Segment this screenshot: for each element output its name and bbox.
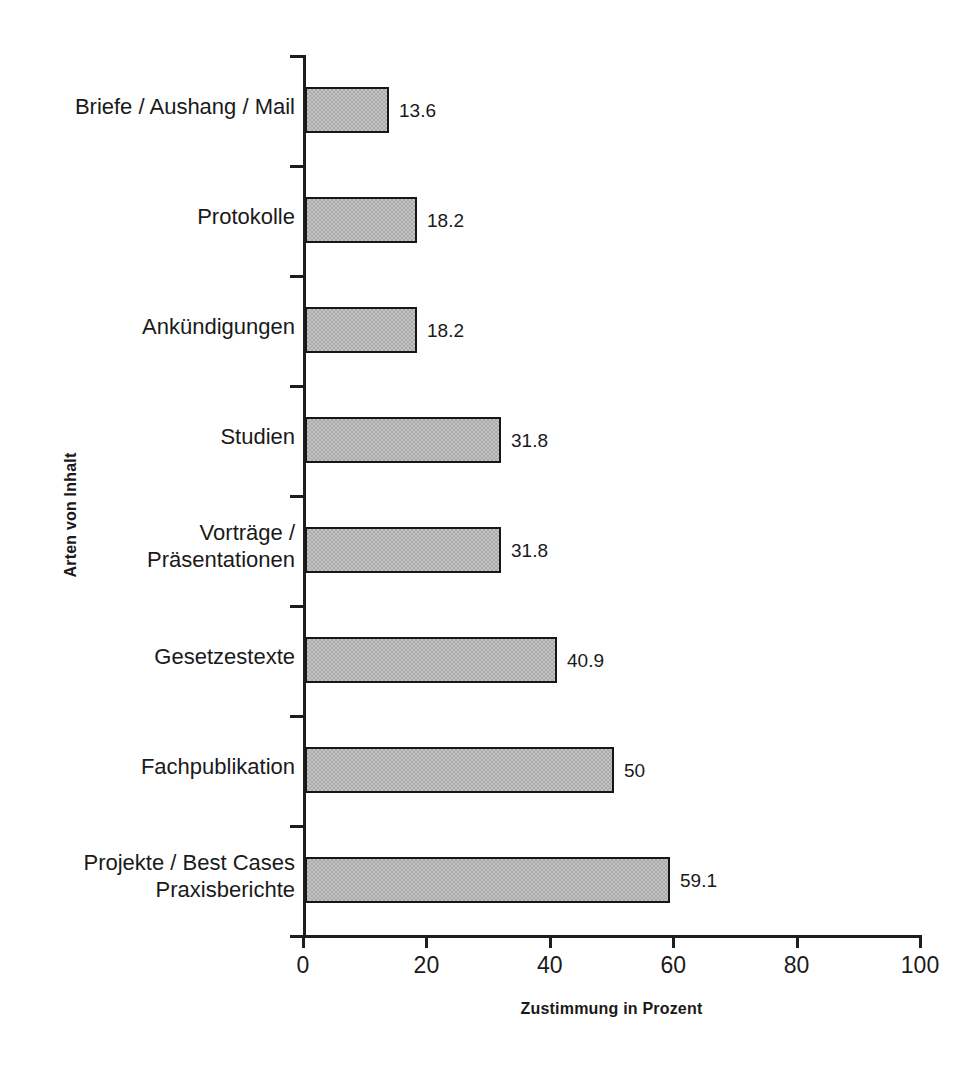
x-tick-100 <box>919 935 922 948</box>
x-axis-line <box>303 935 920 938</box>
category-label: Projekte / Best Cases Praxisberichte <box>0 850 295 904</box>
bar <box>305 857 670 903</box>
category-label: Fachpublikation <box>0 754 295 781</box>
bar-value-label: 40.9 <box>567 651 604 670</box>
chart-page: Arten von Inhalt 020406080100 13.618.218… <box>0 0 975 1073</box>
bar <box>305 527 501 573</box>
bar <box>305 87 389 133</box>
plot-area: 020406080100 13.618.218.231.831.840.9505… <box>303 55 920 935</box>
y-tick-0 <box>290 55 304 58</box>
x-tick-60 <box>672 935 675 948</box>
x-tick-label-20: 20 <box>386 952 466 979</box>
category-label: Studien <box>0 424 295 451</box>
y-tick-5 <box>290 605 304 608</box>
category-label: Briefe / Aushang / Mail <box>0 94 295 121</box>
x-tick-0 <box>302 935 305 948</box>
y-tick-4 <box>290 495 304 498</box>
bar-value-label: 13.6 <box>399 101 436 120</box>
x-tick-40 <box>549 935 552 948</box>
bar-value-label: 18.2 <box>427 321 464 340</box>
x-tick-label-100: 100 <box>880 952 960 979</box>
bar-value-label: 18.2 <box>427 211 464 230</box>
bar <box>305 197 417 243</box>
x-tick-20 <box>425 935 428 948</box>
y-tick-6 <box>290 715 304 718</box>
x-axis-title: Zustimmung in Prozent <box>303 1000 920 1018</box>
y-tick-7 <box>290 825 304 828</box>
bar-value-label: 59.1 <box>680 871 717 890</box>
category-label: Protokolle <box>0 204 295 231</box>
bar-value-label: 31.8 <box>511 541 548 560</box>
bar <box>305 637 557 683</box>
category-label: Gesetzestexte <box>0 644 295 671</box>
category-label: Ankündigungen <box>0 314 295 341</box>
bar <box>305 307 417 353</box>
x-tick-label-60: 60 <box>633 952 713 979</box>
y-tick-1 <box>290 165 304 168</box>
y-tick-2 <box>290 275 304 278</box>
x-tick-80 <box>796 935 799 948</box>
bar-value-label: 50 <box>624 761 645 780</box>
bar <box>305 747 614 793</box>
y-tick-3 <box>290 385 304 388</box>
x-tick-label-40: 40 <box>510 952 590 979</box>
x-tick-label-80: 80 <box>757 952 837 979</box>
x-tick-label-0: 0 <box>263 952 343 979</box>
category-label: Vorträge / Präsentationen <box>0 520 295 574</box>
bar-value-label: 31.8 <box>511 431 548 450</box>
bar <box>305 417 501 463</box>
